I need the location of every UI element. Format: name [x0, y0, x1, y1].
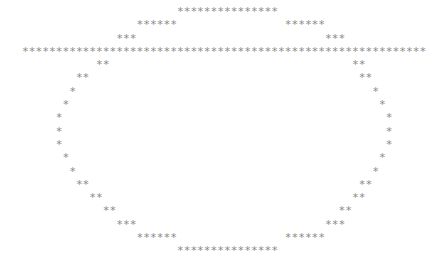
- art-line-6: ** **: [22, 71, 426, 84]
- art-line-1: ***************: [22, 5, 426, 18]
- art-line-11: * *: [22, 138, 426, 151]
- art-line-12: * *: [22, 151, 426, 164]
- art-line-8: * *: [22, 98, 426, 111]
- art-line-14: ** **: [22, 178, 426, 191]
- art-line-9: * *: [22, 111, 426, 124]
- art-line-7: * *: [22, 85, 426, 98]
- art-line-17: *** ***: [22, 218, 426, 231]
- art-line-18: ****** ******: [22, 231, 426, 244]
- art-line-3: *** ***: [22, 32, 426, 45]
- art-line-19: ***************: [22, 244, 426, 257]
- art-line-4: ****************************************…: [22, 45, 426, 58]
- art-line-15: ** **: [22, 191, 426, 204]
- art-line-13: * *: [22, 165, 426, 178]
- art-line-10: * *: [22, 125, 426, 138]
- art-line-2: ****** ******: [22, 18, 426, 31]
- ascii-art-shape: *************** ****** ****** *** ******…: [22, 5, 426, 258]
- art-line-16: ** **: [22, 204, 426, 217]
- art-line-5: ** **: [22, 58, 426, 71]
